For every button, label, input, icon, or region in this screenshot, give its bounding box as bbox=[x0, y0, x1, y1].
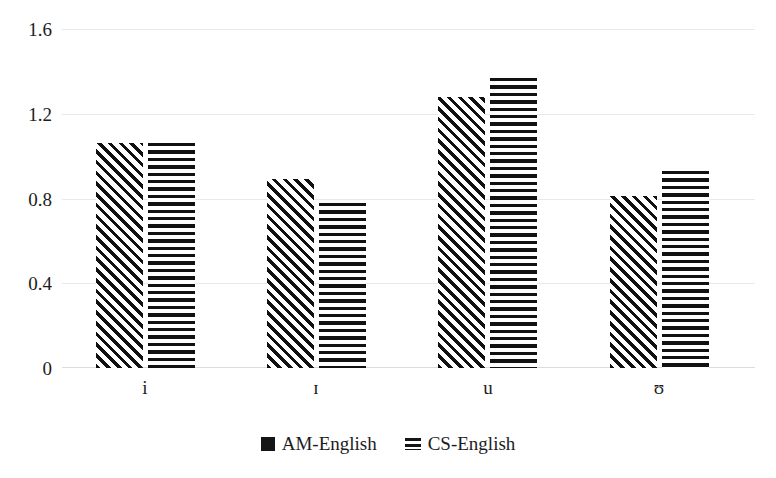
bar-group bbox=[610, 29, 709, 368]
x-tick-label: i bbox=[85, 378, 205, 397]
y-tick-label: 0.8 bbox=[0, 189, 52, 208]
bar-chart: 1.6 1.2 0.8 0.4 0 bbox=[0, 0, 776, 478]
legend-item-cs-english[interactable]: CS-English bbox=[405, 434, 516, 453]
y-tick-label: 1.2 bbox=[0, 104, 52, 123]
legend-item-am-english[interactable]: AM-English bbox=[261, 434, 377, 453]
bar-am-english[interactable] bbox=[610, 196, 657, 368]
y-tick-label: 1.6 bbox=[0, 20, 52, 39]
bar-am-english[interactable] bbox=[267, 179, 314, 368]
plot-area bbox=[62, 29, 755, 368]
x-tick-label: ɪ bbox=[256, 378, 376, 397]
x-tick-label: ʊ bbox=[599, 378, 719, 397]
chart-legend: AM-English CS-English bbox=[0, 434, 776, 453]
x-tick-label: u bbox=[428, 378, 548, 397]
bar-cs-english[interactable] bbox=[148, 143, 195, 368]
bar-group bbox=[438, 29, 537, 368]
bar-am-english[interactable] bbox=[438, 97, 485, 368]
y-tick-label: 0.4 bbox=[0, 274, 52, 293]
bar-group bbox=[96, 29, 195, 368]
y-tick-label: 0 bbox=[0, 359, 52, 378]
bar-cs-english[interactable] bbox=[319, 203, 366, 368]
legend-label: CS-English bbox=[428, 434, 516, 453]
horizontal-stripe-marker-icon bbox=[405, 438, 421, 450]
bar-cs-english[interactable] bbox=[490, 78, 537, 368]
bar-group bbox=[267, 29, 366, 368]
bar-cs-english[interactable] bbox=[662, 171, 709, 368]
filled-square-marker-icon bbox=[261, 437, 275, 451]
bar-am-english[interactable] bbox=[96, 143, 143, 368]
legend-label: AM-English bbox=[282, 434, 377, 453]
